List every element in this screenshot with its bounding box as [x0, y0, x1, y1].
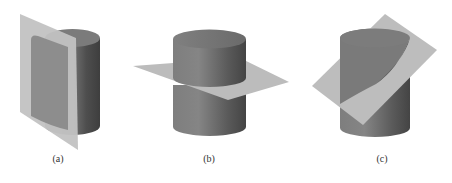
panel-a — [20, 14, 100, 150]
caption-b: (b) — [203, 153, 215, 164]
panel-c — [312, 14, 437, 137]
panel-b — [133, 30, 289, 137]
caption-a: (a) — [52, 153, 63, 164]
caption-c: (c) — [376, 153, 387, 164]
cylinder-b-upper — [173, 30, 246, 88]
